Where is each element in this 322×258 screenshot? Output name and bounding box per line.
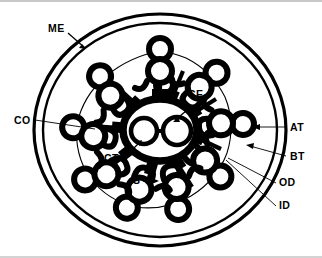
label-s: S bbox=[133, 174, 140, 186]
bt-leader bbox=[250, 146, 286, 156]
label-co: CO bbox=[14, 114, 31, 126]
central-apparatus-group bbox=[123, 99, 197, 161]
label-me: ME bbox=[48, 22, 65, 34]
inner-dynein-arm bbox=[93, 111, 107, 124]
label-at: AT bbox=[290, 121, 304, 133]
bt-arrowhead bbox=[246, 143, 254, 149]
inner-dynein-arm bbox=[135, 81, 147, 89]
outer-doublet bbox=[135, 38, 173, 93]
central-tubule-c1 bbox=[131, 118, 157, 144]
axoneme-diagram-svg: ME CO CE AT BT OD ID CT S bbox=[0, 0, 322, 258]
label-ct: CT bbox=[104, 152, 119, 164]
label-ce: CE bbox=[188, 88, 203, 100]
inner-dynein-arm bbox=[92, 152, 104, 166]
id-leader bbox=[226, 160, 276, 206]
label-bt: BT bbox=[290, 150, 305, 162]
s-arrowhead bbox=[152, 178, 159, 184]
label-od: OD bbox=[279, 176, 296, 188]
label-id: ID bbox=[279, 199, 290, 211]
axoneme-figure: ME CO CE AT BT OD ID CT S bbox=[0, 0, 322, 258]
